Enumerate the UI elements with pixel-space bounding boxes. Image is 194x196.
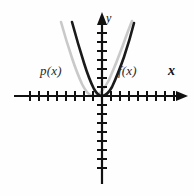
x-axis-arrowhead: [176, 91, 188, 101]
coordinate-plane-svg: [0, 0, 194, 196]
curve-label-f: f(x): [118, 64, 137, 77]
y-axis-label: y: [106, 12, 111, 24]
parabola-figure: p(x) f(x) x y: [0, 0, 194, 196]
curve-label-p: p(x): [40, 64, 62, 77]
y-axis-ticks-up: [97, 33, 107, 87]
curve-p: [61, 21, 132, 96]
x-axis-label: x: [168, 64, 175, 78]
